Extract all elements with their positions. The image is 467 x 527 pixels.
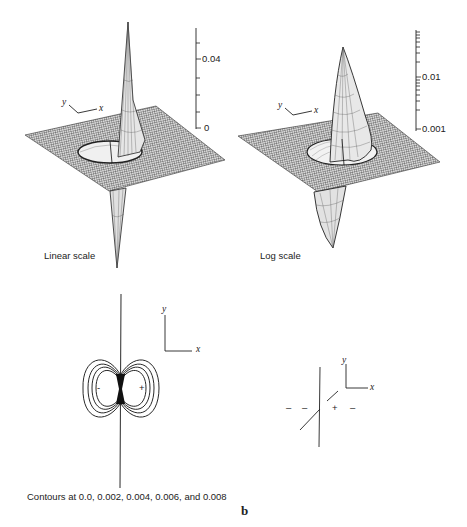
sign-negative: – — [286, 402, 291, 413]
log-scale-plot: 0.01 0.001 y x Log scale — [230, 0, 467, 270]
panel-label: b — [241, 503, 248, 519]
plot-caption: Linear scale — [44, 250, 95, 261]
axis-label-x: x — [196, 344, 200, 354]
axis-label-x: x — [99, 103, 103, 113]
sign-negative: – — [350, 402, 355, 413]
axis-label-x: x — [370, 382, 374, 392]
lobe-sign-negative: - — [97, 382, 100, 393]
axis-label-y: y — [342, 355, 346, 365]
z-tick-label: 0.001 — [422, 123, 446, 134]
contour-graphic — [0, 270, 240, 527]
sign-negative: – — [302, 402, 307, 413]
sign-diagram: – – + – y x — [240, 300, 467, 527]
log-surface-graphic — [230, 0, 467, 270]
sign-positive: + — [332, 402, 338, 413]
axis-label-y: y — [162, 304, 166, 314]
plot-caption: Log scale — [260, 250, 301, 261]
axis-label-y: y — [62, 97, 66, 107]
z-tick-label: 0.01 — [422, 71, 441, 82]
contour-caption: Contours at 0.0, 0.002, 0.004, 0.006, an… — [27, 491, 227, 502]
axis-label-y: y — [278, 100, 282, 110]
lobe-sign-positive: + — [139, 382, 145, 393]
sign-diagram-graphic — [240, 300, 467, 527]
contour-plot: - + y x Contours at 0.0, 0.002, 0.004, 0… — [0, 270, 240, 527]
linear-scale-plot: 0.04 0 y x Linear scale — [0, 0, 235, 270]
z-tick-label: 0 — [204, 122, 209, 133]
z-tick-label: 0.04 — [202, 53, 221, 64]
axis-label-x: x — [314, 105, 318, 115]
linear-surface-graphic — [0, 0, 235, 270]
